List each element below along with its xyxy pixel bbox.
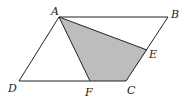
shaded-quadrilateral-aecf xyxy=(59,17,147,81)
label-c: C xyxy=(127,84,136,97)
label-b: B xyxy=(170,8,179,21)
label-f: F xyxy=(84,86,93,99)
label-e: E xyxy=(148,48,157,61)
label-a: A xyxy=(50,5,59,18)
label-d: D xyxy=(7,82,17,95)
parallelogram-diagram: A B C D E F xyxy=(0,0,184,104)
